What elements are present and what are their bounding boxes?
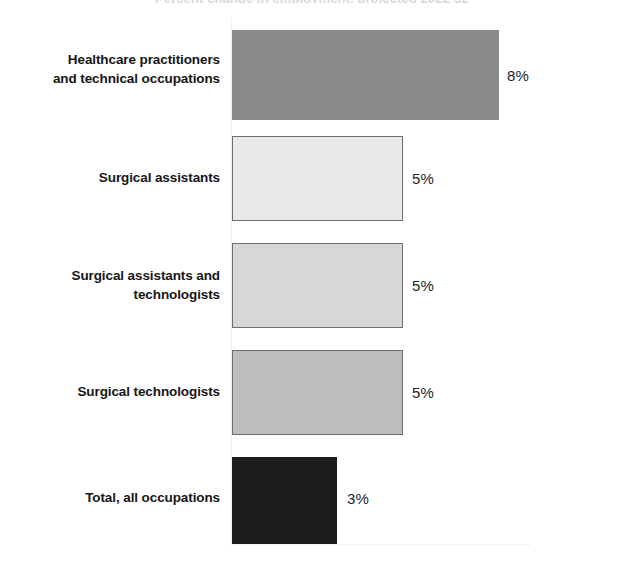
- bar-row: Total, all occupations 3%: [0, 457, 624, 544]
- bar-value-label: 5%: [412, 170, 434, 187]
- category-label-line: Surgical assistants and: [8, 266, 220, 285]
- category-label-line: Healthcare practitioners: [8, 50, 220, 69]
- category-label-line: Surgical technologists: [8, 382, 220, 401]
- category-label: Surgical technologists: [8, 382, 220, 401]
- category-label: Surgical assistants and technologists: [8, 266, 220, 304]
- category-label: Total, all occupations: [8, 488, 220, 507]
- category-label-line: Surgical assistants: [8, 168, 220, 187]
- bar-row: Healthcare practitioners and technical o…: [0, 30, 624, 120]
- chart-title: Percent change in employment, projected …: [0, 0, 624, 3]
- bar[interactable]: [232, 457, 337, 544]
- bar[interactable]: [232, 350, 403, 435]
- category-label: Healthcare practitioners and technical o…: [8, 50, 220, 88]
- horizontal-bar-chart: Percent change in employment, projected …: [0, 0, 624, 567]
- bar-row: Surgical assistants and technologists 5%: [0, 243, 624, 328]
- bar-value-label: 5%: [412, 277, 434, 294]
- bar[interactable]: [232, 136, 403, 221]
- bar-value-label: 3%: [347, 490, 369, 507]
- bar-value-label: 5%: [412, 384, 434, 401]
- bar-value-label: 8%: [507, 67, 529, 84]
- axis-line-bottom: [231, 544, 531, 545]
- bar-row: Surgical technologists 5%: [0, 350, 624, 435]
- bar[interactable]: [232, 243, 403, 328]
- bar[interactable]: [232, 30, 499, 120]
- bar-row: Surgical assistants 5%: [0, 136, 624, 221]
- category-label-line: technologists: [8, 285, 220, 304]
- category-label-line: and technical occupations: [8, 69, 220, 88]
- category-label: Surgical assistants: [8, 168, 220, 187]
- category-label-line: Total, all occupations: [8, 488, 220, 507]
